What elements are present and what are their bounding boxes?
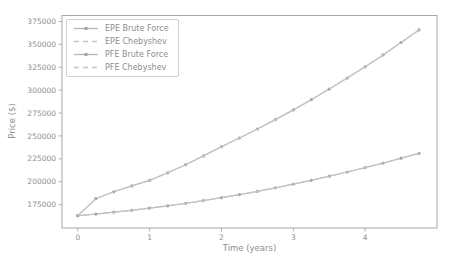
- legend-item-pfe-chebyshev: PFE Chebyshev: [73, 63, 174, 72]
- series-line-epe-chebyshev: [78, 153, 419, 215]
- legend-label: PFE Brute Force: [105, 50, 168, 59]
- y-tick-label: 225000: [27, 154, 56, 163]
- legend-label: EPE Chebyshev: [105, 37, 167, 46]
- legend-marker-sample: [84, 53, 88, 57]
- legend-item-pfe-brute-force: PFE Brute Force: [73, 50, 174, 59]
- series-line-epe-brute-force: [78, 153, 419, 215]
- y-tick-label: 275000: [27, 109, 56, 118]
- y-tick-label: 250000: [27, 132, 56, 141]
- figure: 0123417500020000022500025000027500030000…: [0, 0, 458, 265]
- marker-line-icon: [73, 50, 99, 59]
- legend-label: EPE Brute Force: [105, 24, 169, 33]
- x-tick-label: 3: [291, 233, 296, 242]
- y-tick-label: 375000: [27, 17, 56, 26]
- y-tick-label: 300000: [27, 86, 56, 95]
- legend-label: PFE Chebyshev: [105, 63, 166, 72]
- x-tick-label: 1: [147, 233, 152, 242]
- dashed-line-icon: [73, 37, 99, 46]
- y-tick-label: 325000: [27, 63, 56, 72]
- y-tick-label: 350000: [27, 40, 56, 49]
- y-tick-label: 200000: [27, 177, 56, 186]
- legend-item-epe-brute-force: EPE Brute Force: [73, 24, 174, 33]
- x-tick-label: 2: [219, 233, 224, 242]
- legend-marker-sample: [84, 27, 88, 31]
- x-axis-label: Time (years): [62, 243, 437, 253]
- x-tick-label: 4: [363, 233, 368, 242]
- y-tick-label: 175000: [27, 200, 56, 209]
- marker-line-icon: [73, 24, 99, 33]
- x-tick-label: 0: [75, 233, 80, 242]
- legend: EPE Brute ForceEPE ChebyshevPFE Brute Fo…: [66, 19, 179, 77]
- dashed-line-icon: [73, 63, 99, 72]
- y-axis-label: Price ($): [7, 103, 17, 138]
- legend-item-epe-chebyshev: EPE Chebyshev: [73, 37, 174, 46]
